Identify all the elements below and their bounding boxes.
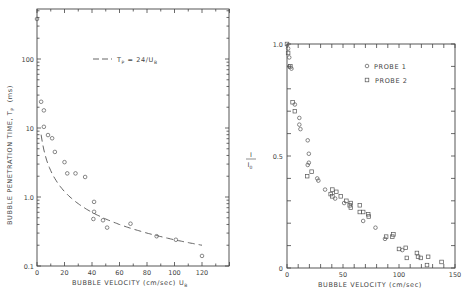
left-legend: TP = 24/UB — [93, 56, 158, 65]
probe-2-point — [293, 109, 297, 113]
probe-1-point — [287, 56, 291, 60]
data-point — [92, 200, 96, 204]
probe-2-point — [405, 256, 409, 260]
probe-1-point — [290, 67, 294, 71]
left-legend-text: TP = 24/UB — [116, 56, 158, 65]
x-tick-label: 80 — [143, 269, 151, 277]
left-tick-labels: 0204060801001200.11.010100 — [22, 56, 209, 278]
data-point — [65, 172, 69, 176]
probe-1-point — [306, 139, 310, 143]
probe-2-point — [425, 263, 429, 267]
x-tick-label: 100 — [168, 269, 180, 277]
probe-2-point — [349, 201, 353, 205]
probe-2-point — [390, 235, 394, 239]
x-tick-label: 120 — [196, 269, 208, 277]
probe-2-point — [334, 190, 338, 194]
x-tick-label: 20 — [60, 269, 68, 277]
probe-1-point — [374, 226, 378, 230]
data-point — [200, 254, 204, 258]
x-tick-label: 100 — [393, 271, 405, 279]
y-tick-label: 0 — [279, 265, 283, 273]
y-tick-label: 0.5 — [273, 153, 283, 161]
probe-2-point — [345, 199, 349, 203]
y-tick-label: 0.1 — [24, 263, 34, 271]
probe-2-point — [404, 246, 408, 250]
probe-2-point — [339, 195, 343, 199]
probe-1-point — [298, 116, 302, 120]
probe-1-point — [342, 201, 346, 205]
data-point — [50, 136, 54, 140]
probe-1-point — [323, 188, 327, 192]
left-plot-frame — [37, 9, 229, 266]
probe-1-point — [383, 237, 387, 241]
x-tick-label: 50 — [339, 271, 347, 279]
probe-2-point — [305, 174, 309, 178]
legend-probe-2: PROBE 2 — [375, 77, 408, 85]
right-chart-intensity-ratio: 05010015000.51.0 PROBE 1 PROBE 2 BUBBLE … — [246, 41, 461, 290]
y-tick-label: 1.0 — [24, 194, 34, 202]
svg-text:I: I — [250, 151, 252, 159]
data-point — [105, 226, 109, 230]
probe-1-point — [293, 103, 297, 107]
probe-2-point — [310, 170, 314, 174]
probe-1-point — [299, 127, 303, 131]
data-point — [42, 109, 46, 113]
svg-text:I0: I0 — [248, 161, 253, 170]
probe-2-point — [331, 188, 335, 192]
probe-2-point — [440, 260, 444, 264]
probe-1-point — [361, 219, 365, 223]
data-point — [53, 150, 57, 154]
data-point — [74, 172, 78, 176]
probe-2-point — [426, 255, 430, 259]
data-point — [83, 175, 87, 179]
data-point — [174, 238, 178, 242]
left-chart-penetration-time: 0204060801001200.11.010100 TP = 24/UB BU… — [6, 9, 230, 288]
left-fit-curve-dashed — [41, 135, 202, 246]
right-y-axis-label: I I0 — [246, 151, 256, 170]
figure: 0204060801001200.11.010100 TP = 24/UB BU… — [0, 0, 473, 298]
right-x-axis-label: BUBBLE VELOCITY (cm/sec) — [318, 281, 422, 289]
square-marker-legend-icon — [365, 78, 369, 82]
probe-2-point — [348, 203, 352, 207]
probe-2-point — [358, 203, 362, 207]
y-tick-label: 1.0 — [273, 41, 283, 49]
right-tick-labels: 05010015000.51.0 — [273, 41, 462, 280]
x-tick-label: 0 — [35, 269, 39, 277]
right-plot-frame — [287, 44, 455, 268]
data-point — [129, 222, 133, 226]
probe-2-point — [291, 100, 295, 104]
data-point — [101, 218, 105, 222]
right-axis-ticks — [287, 44, 455, 268]
probe-1-point — [298, 123, 302, 127]
circle-marker-legend-icon — [365, 64, 369, 68]
y-tick-label: 10 — [26, 125, 34, 133]
left-y-axis-label: BUBBLE PENETRATION TIME, TP(ms) — [6, 85, 15, 225]
y-tick-label: 100 — [22, 56, 34, 64]
probe-2-point — [349, 206, 353, 210]
left-axis-ticks — [37, 9, 230, 266]
legend-probe-1: PROBE 1 — [374, 63, 407, 71]
x-tick-label: 0 — [285, 271, 289, 279]
data-point — [46, 133, 50, 137]
left-x-axis-label: BUBBLE VELOCITY (cm/sec)UB — [72, 279, 188, 288]
left-data-points — [35, 17, 204, 258]
data-point — [39, 100, 43, 104]
right-legend: PROBE 1 PROBE 2 — [365, 63, 407, 85]
probe-2-point — [415, 251, 419, 255]
probe-2-point — [392, 233, 396, 237]
data-point — [63, 160, 67, 164]
x-tick-label: 60 — [115, 269, 123, 277]
x-tick-label: 150 — [449, 271, 461, 279]
right-data-points — [285, 42, 443, 267]
x-tick-label: 40 — [88, 269, 96, 277]
probe-1-point — [307, 152, 311, 156]
data-point — [92, 217, 96, 221]
data-point — [42, 125, 46, 129]
